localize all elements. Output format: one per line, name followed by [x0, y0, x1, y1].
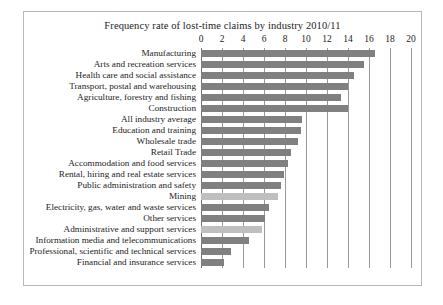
bar — [201, 182, 281, 189]
bar — [201, 105, 348, 112]
bar-row — [201, 48, 411, 59]
category-label: Accommodation and food services — [68, 158, 196, 170]
bar-row — [201, 202, 411, 213]
category-label: All industry average — [121, 114, 196, 126]
x-tick-label-8: 8 — [283, 34, 288, 44]
category-label: Arts and recreation services — [94, 59, 196, 71]
bar — [201, 149, 291, 156]
category-label: Public administration and safety — [77, 180, 196, 192]
x-tick-label-6: 6 — [262, 34, 267, 44]
category-label: Agriculture, forestry and fishing — [77, 92, 196, 104]
bar-row — [201, 59, 411, 70]
category-label: Wholesale trade — [137, 136, 196, 148]
bar — [201, 171, 284, 178]
x-tick-label-12: 12 — [322, 34, 332, 44]
x-tick-label-16: 16 — [364, 34, 374, 44]
category-label: Construction — [149, 103, 196, 115]
bar — [201, 237, 249, 244]
bar-row — [201, 81, 411, 92]
bar-row — [201, 158, 411, 169]
bar-row — [201, 191, 411, 202]
bar — [201, 50, 375, 57]
bar-row — [201, 114, 411, 125]
chart-title: Frequency rate of lost-time claims by in… — [24, 20, 421, 31]
bar — [201, 226, 262, 233]
bar — [201, 193, 278, 200]
bar — [201, 204, 269, 211]
category-label: Education and training — [112, 125, 196, 137]
plot-area — [201, 48, 411, 268]
bar — [201, 116, 302, 123]
x-tick-label-4: 4 — [241, 34, 246, 44]
bar-row — [201, 224, 411, 235]
bar — [201, 61, 364, 68]
bar-row — [201, 70, 411, 81]
category-label: Information media and telecommunications — [36, 235, 196, 247]
category-label: Professional, scientific and technical s… — [29, 246, 196, 258]
category-label: Manufacturing — [141, 48, 196, 60]
bar — [201, 83, 348, 90]
bar — [201, 138, 298, 145]
x-tick-label-14: 14 — [343, 34, 353, 44]
bar — [201, 259, 224, 266]
category-label: Mining — [169, 191, 196, 203]
bar-row — [201, 246, 411, 257]
bar-row — [201, 136, 411, 147]
y-axis-category-labels: ManufacturingArts and recreation service… — [24, 48, 199, 268]
x-tick-label-2: 2 — [220, 34, 225, 44]
x-tick-label-18: 18 — [385, 34, 395, 44]
bar — [201, 215, 265, 222]
bar-row — [201, 180, 411, 191]
x-tick-label-20: 20 — [406, 34, 416, 44]
category-label: Administrative and support services — [64, 224, 196, 236]
bar-row — [201, 103, 411, 114]
gridline-20 — [411, 48, 412, 268]
bar-row — [201, 92, 411, 103]
category-label: Health care and social assistance — [76, 70, 196, 82]
category-label: Retail Trade — [151, 147, 196, 159]
x-tick-label-10: 10 — [301, 34, 311, 44]
bar-row — [201, 235, 411, 246]
bar-row — [201, 257, 411, 268]
bar — [201, 94, 341, 101]
bar-row — [201, 213, 411, 224]
bar — [201, 160, 288, 167]
chart-figure: Frequency rate of lost-time claims by in… — [23, 11, 422, 286]
category-label: Rental, hiring and real estate services — [59, 169, 196, 181]
bar — [201, 127, 301, 134]
bar — [201, 248, 231, 255]
bar-row — [201, 169, 411, 180]
bar — [201, 72, 354, 79]
category-label: Financial and insurance services — [77, 257, 196, 269]
category-label: Electricity, gas, water and waste servic… — [46, 202, 196, 214]
bar-series — [201, 48, 411, 268]
x-tick-label-0: 0 — [199, 34, 204, 44]
bar-row — [201, 125, 411, 136]
x-axis-tick-labels: 02468101214161820 — [201, 34, 411, 47]
category-label: Other services — [143, 213, 196, 225]
category-label: Transport, postal and warehousing — [69, 81, 196, 93]
bar-row — [201, 147, 411, 158]
